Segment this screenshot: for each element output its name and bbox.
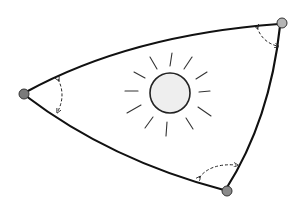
vertex-bottom [222,186,232,196]
edge-bottom-to-left [26,96,224,190]
triangle-edges [26,24,280,190]
angle-arc-left [58,79,62,111]
edge-top-to-bottom [226,26,280,189]
vertices [19,18,287,196]
angle-arc-bottom [199,165,236,178]
vertex-top-right [277,18,287,28]
vertex-left [19,89,29,99]
angle-arc-top-right [257,27,277,46]
sun-icon [150,73,190,113]
curved-triangle-diagram [0,0,303,209]
